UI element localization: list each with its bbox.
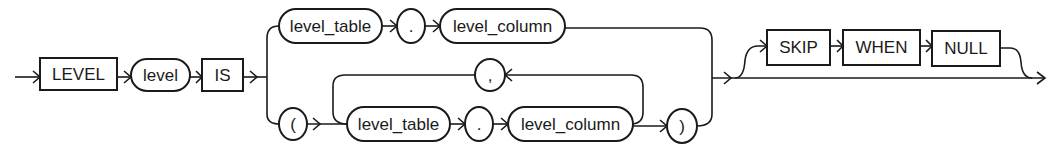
optional-branch-exit (1000, 48, 1032, 78)
keyword-level-box: LEVEL (40, 58, 117, 90)
upper-dot-label: . (409, 17, 414, 36)
keyword-level-label: LEVEL (52, 65, 105, 84)
lower-level-column-label: level_column (521, 115, 620, 134)
keyword-is-label: IS (214, 66, 230, 85)
keyword-skip-box: SKIP (767, 30, 830, 65)
lower-level-table-oval: level_table (347, 107, 450, 141)
upper-dot-circle: . (397, 9, 425, 43)
branch-join (697, 40, 712, 126)
close-paren-label: ) (679, 117, 685, 136)
lower-level-column-oval: level_column (508, 107, 633, 141)
keyword-null-box: NULL (932, 31, 1000, 66)
open-paren-circle: ( (279, 108, 307, 140)
comma-separator-label: , (488, 66, 493, 85)
syntax-diagram: LEVEL level IS level_table . level_colum… (0, 0, 1058, 153)
param-level-label: level (143, 66, 178, 85)
upper-level-column-label: level_column (453, 17, 552, 36)
keyword-is-box: IS (202, 59, 243, 91)
comma-separator-circle: , (475, 59, 505, 91)
lower-dot-circle: . (465, 107, 493, 141)
keyword-when-box: WHEN (843, 30, 920, 65)
upper-level-table-label: level_table (290, 17, 371, 36)
upper-level-table-oval: level_table (279, 9, 382, 43)
lower-dot-label: . (477, 115, 482, 134)
branch-split (267, 26, 279, 124)
keyword-null-label: NULL (944, 39, 987, 58)
keyword-skip-label: SKIP (779, 38, 818, 57)
param-level-oval: level (131, 59, 190, 91)
close-paren-circle: ) (667, 109, 697, 143)
open-paren-label: ( (290, 115, 296, 134)
keyword-when-label: WHEN (856, 38, 908, 57)
entry-arrow (15, 71, 40, 83)
connector (565, 28, 712, 40)
lower-level-table-label: level_table (358, 115, 439, 134)
upper-level-column-oval: level_column (440, 9, 565, 43)
